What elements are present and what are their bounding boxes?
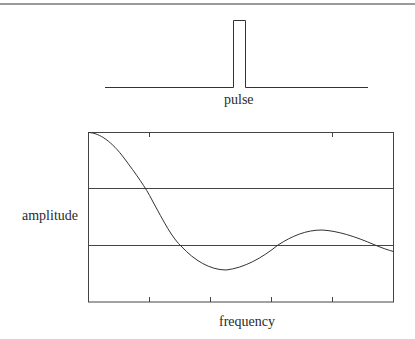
bottom-ticks bbox=[150, 297, 333, 302]
y-axis-label: amplitude bbox=[22, 208, 78, 224]
pulse-label: pulse bbox=[224, 92, 254, 108]
spectrum-plot bbox=[89, 133, 394, 303]
top-ticks bbox=[150, 133, 333, 138]
plot-frame bbox=[89, 133, 394, 303]
spectrum-curve bbox=[89, 133, 394, 271]
x-axis-label: frequency bbox=[219, 314, 275, 330]
pulse-graphic bbox=[105, 21, 368, 88]
figure bbox=[0, 0, 415, 339]
